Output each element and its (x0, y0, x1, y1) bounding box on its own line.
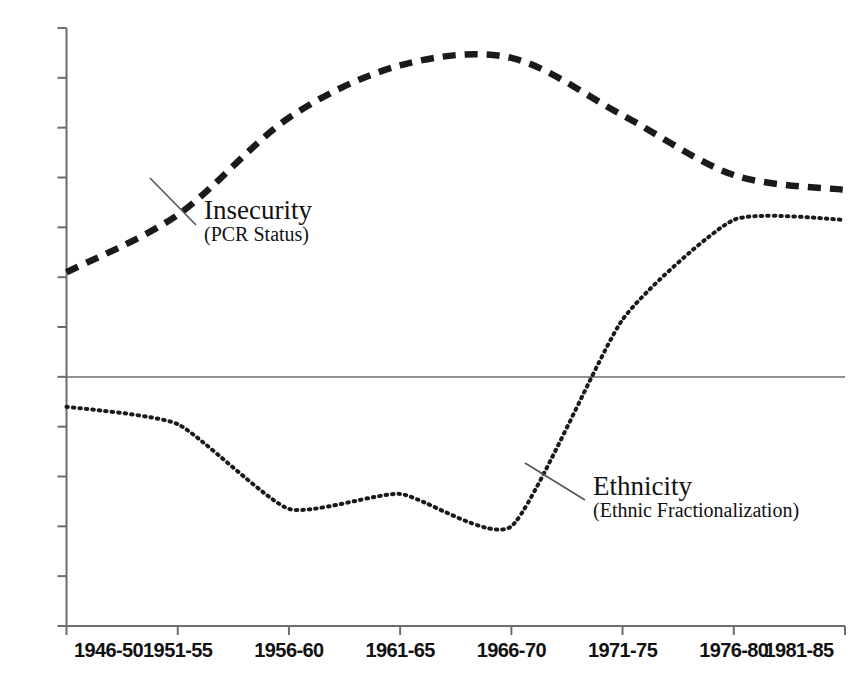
annotation-sublabel: (Ethnic Fractionalization) (593, 500, 799, 521)
x-tick-label: 1971-75 (588, 640, 657, 660)
x-tick-label: 1976-80 (699, 640, 768, 660)
annotation-label: Ethnicity (593, 472, 799, 500)
series-annotation-ethnicity: Ethnicity (Ethnic Fractionalization) (593, 472, 799, 521)
x-tick-label: 1946-50 (74, 640, 143, 660)
x-tick-label: 1956-60 (254, 640, 323, 660)
annotation-sublabel: (PCR Status) (204, 224, 312, 245)
x-tick-label: 1951-55 (143, 640, 212, 660)
x-tick-label: 1961-65 (366, 640, 435, 660)
x-axis-tick-labels: 1946-501951-551956-601961-651966-701971-… (0, 0, 861, 674)
chart-container: 0.70.60.50.40.30.20.10-0.1-0.2-0.3-0.4-0… (0, 0, 861, 674)
series-annotation-insecurity: Insecurity (PCR Status) (204, 196, 312, 245)
x-tick-label: 1966-70 (477, 640, 546, 660)
x-tick-label: 1981-85 (764, 640, 833, 660)
annotation-label: Insecurity (204, 196, 312, 224)
